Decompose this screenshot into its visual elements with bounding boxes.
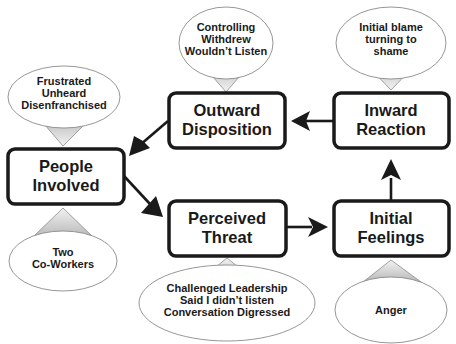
callout-perceived-threat: Challenged Leadership Said I didn’t list…: [139, 258, 315, 341]
callout-text-line: Wouldn’t Listen: [185, 45, 268, 57]
node-people-involved[interactable]: People Involved: [8, 149, 124, 204]
node-inward-reaction[interactable]: Inward Reaction: [334, 93, 449, 148]
node-label-line: Reaction: [356, 120, 426, 138]
callout-text-line: Withdrew: [201, 33, 251, 45]
callout-text-line: Co-Workers: [32, 258, 94, 270]
node-label-line: Inward: [364, 101, 417, 119]
callout-initial-feelings: Anger: [335, 260, 447, 343]
node-outward-disposition[interactable]: Outward Disposition: [169, 93, 285, 148]
callout-text-line: Two: [52, 246, 73, 258]
callout-text-line: shame: [374, 45, 409, 57]
node-label-line: Disposition: [182, 120, 272, 138]
callout-text-line: Disenfranchised: [21, 99, 107, 111]
node-perceived-threat[interactable]: Perceived Threat: [169, 201, 286, 256]
arrow-people-to-threat: [124, 176, 163, 217]
callout-text-line: turning to: [365, 33, 417, 45]
arrow-outward-to-people: [129, 121, 168, 156]
node-initial-feelings[interactable]: Initial Feelings: [334, 201, 449, 256]
arrow-threat-to-feelings: [287, 217, 328, 237]
flow-diagram: Frustrated Unheard Disenfranchised Contr…: [0, 0, 456, 344]
callout-text-line: Conversation Digressed: [164, 306, 291, 318]
node-label-line: Threat: [202, 228, 253, 246]
callout-text-line: Frustrated: [37, 75, 91, 87]
node-label-line: Feelings: [358, 228, 425, 246]
callout-people-involved: Two Co-Workers: [9, 208, 117, 291]
node-label-line: Perceived: [188, 209, 266, 227]
callout-text-line: Initial blame: [359, 21, 423, 33]
node-label-line: Initial: [369, 209, 412, 227]
callout-people-feelings: Frustrated Unheard Disenfranchised: [8, 66, 120, 146]
callout-text-line: Challenged Leadership: [166, 282, 287, 294]
callout-outward-disposition: Controlling Withdrew Wouldn’t Listen: [179, 7, 273, 92]
callout-text-line: Anger: [375, 304, 408, 316]
node-label-line: People: [39, 157, 93, 175]
node-label-line: Involved: [33, 176, 100, 194]
callout-inward-reaction: Initial blame turning to shame: [336, 7, 446, 90]
callout-text-line: Unheard: [42, 87, 87, 99]
arrow-inward-to-outward: [291, 111, 333, 131]
callout-text-line: Controlling: [197, 21, 256, 33]
arrow-feelings-to-inward: [381, 159, 401, 200]
callout-text-line: Said I didn’t listen: [180, 294, 274, 306]
node-label-line: Outward: [194, 101, 261, 119]
